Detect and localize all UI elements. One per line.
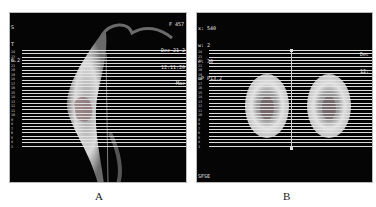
slice-handle-top xyxy=(290,49,293,52)
overlay-text: Mac xyxy=(161,81,185,87)
overlay-text: x: 540 xyxy=(198,26,222,32)
overlay-top-left: S T 6.2 xyxy=(11,14,23,75)
overlay-date: Dec xyxy=(360,52,372,58)
overlay-sequence: SFSE xyxy=(198,174,210,180)
overlay-text: T xyxy=(11,42,23,48)
overlay-datetime: Dec 12: xyxy=(360,41,372,85)
overlay-top-right: F 457 xyxy=(169,22,184,28)
overlay-text: e: 30 xyxy=(198,59,222,65)
overlay-time: 12: xyxy=(360,69,372,75)
overlay-text: 6.2 xyxy=(11,58,23,64)
panel-a-caption: A xyxy=(95,190,103,202)
mri-panel-b: 24 23 22 21 20 19 18 17 16 15 14 13 12 1… xyxy=(196,12,373,183)
overlay-time: 12:11:20 xyxy=(161,65,185,71)
overlay-date: Dec 21 2 xyxy=(161,48,185,54)
overlay-text: oP P13.2 xyxy=(198,76,222,82)
overlay-text: w: 2 xyxy=(198,43,222,49)
overlay-datetime: Dec 21 2 12:11:20 Mac xyxy=(161,37,185,98)
panel-b-caption: B xyxy=(283,190,290,202)
slice-position-line xyxy=(291,50,292,149)
overlay-text: S xyxy=(11,25,23,31)
slice-handle-bottom xyxy=(290,147,293,150)
overlay-top-left: x: 540 w: 2 e: 30 oP P13.2 xyxy=(198,15,222,92)
mri-panel-a: 24 23 22 21 20 19 18 17 16 15 14 13 12 1… xyxy=(9,12,187,183)
